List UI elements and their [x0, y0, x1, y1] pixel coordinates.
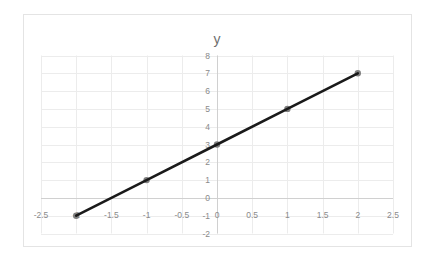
x-tick-label: 1.5 [317, 210, 329, 220]
x-tick-label: 2.5 [387, 210, 399, 220]
y-tick-label: 8 [205, 51, 210, 61]
x-tick-label: 0.5 [246, 210, 258, 220]
x-tick-label: 0 [215, 210, 220, 220]
x-tick-label: -1.5 [104, 210, 119, 220]
y-tick-label: -2 [202, 229, 210, 239]
y-tick-label: 2 [205, 157, 210, 167]
y-tick-label: 0 [205, 193, 210, 203]
y-tick-label: 6 [205, 86, 210, 96]
x-tick-label: -0.5 [174, 210, 189, 220]
y-tick-label: 5 [205, 104, 210, 114]
y-tick-label: 1 [205, 175, 210, 185]
y-tick-label: 7 [205, 68, 210, 78]
x-tick-label: 2 [355, 210, 360, 220]
chart-title: y [214, 31, 221, 47]
y-tick-label: -1 [202, 211, 210, 221]
x-tick-label: -2.5 [34, 210, 49, 220]
chart: y -2.5-2-1.5-1-0.500.511.522.5 -2-101234… [0, 0, 433, 260]
y-tick-label: 4 [205, 122, 210, 132]
x-tick-label: 1 [285, 210, 290, 220]
x-tick-label: -1 [143, 210, 151, 220]
